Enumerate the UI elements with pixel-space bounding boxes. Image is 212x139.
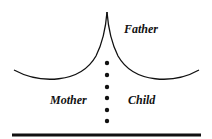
base-line — [12, 134, 201, 137]
divider-dot — [105, 73, 109, 77]
mother-label: Mother — [49, 93, 87, 107]
family-diagram: Father Mother Child — [0, 0, 212, 139]
father-label: Father — [123, 22, 158, 36]
left-arc — [14, 12, 107, 79]
divider-dot — [105, 85, 109, 89]
divider-dot — [105, 119, 109, 123]
divider-dot — [105, 96, 109, 100]
divider-dot — [105, 108, 109, 112]
dotted-divider — [105, 61, 109, 123]
child-label: Child — [128, 93, 156, 107]
divider-dot — [105, 61, 109, 65]
